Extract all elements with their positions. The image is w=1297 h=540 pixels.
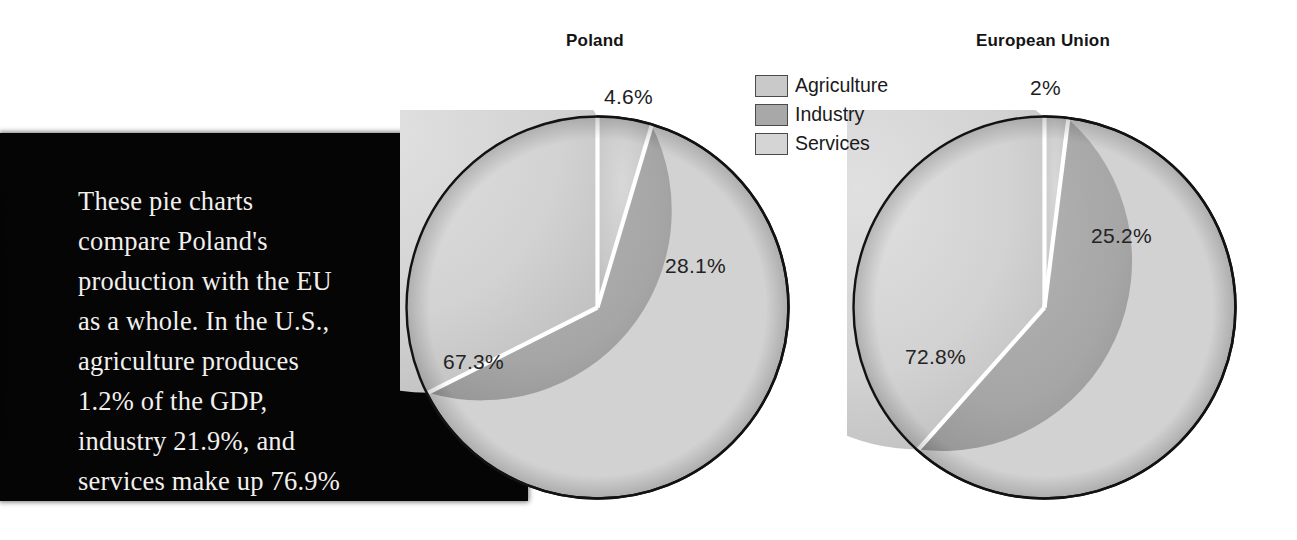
legend-swatch-services: [755, 133, 788, 155]
poland-pie-chart: [400, 110, 795, 505]
eu-label-services: 72.8%: [905, 345, 966, 369]
legend-label-industry: Industry: [795, 105, 864, 125]
legend-label-services: Services: [795, 134, 870, 154]
legend-swatch-agriculture: [755, 75, 788, 97]
legend-item-services: Services: [755, 129, 915, 158]
eu-label-agriculture: 2%: [1030, 76, 1061, 100]
poland-pie-shading: [407, 117, 789, 499]
poland-label-agriculture: 4.6%: [604, 85, 653, 109]
eu-label-industry: 25.2%: [1091, 224, 1152, 248]
legend-label-agriculture: Agriculture: [795, 76, 888, 96]
eu-pie-chart: [847, 110, 1242, 505]
poland-label-services: 67.3%: [443, 350, 504, 374]
pie-chart-figure: These pie charts compare Poland's produc…: [0, 0, 1297, 540]
eu-pie-svg: [847, 110, 1242, 505]
poland-chart-title: Poland: [495, 31, 695, 51]
poland-pie-svg: [400, 110, 795, 505]
eu-chart-title: European Union: [938, 31, 1148, 51]
poland-label-industry: 28.1%: [665, 254, 726, 278]
eu-pie-shading: [854, 117, 1236, 499]
legend-item-agriculture: Agriculture: [755, 71, 915, 100]
legend-swatch-industry: [755, 104, 788, 126]
legend-item-industry: Industry: [755, 100, 915, 129]
legend: Agriculture Industry Services: [755, 71, 915, 158]
